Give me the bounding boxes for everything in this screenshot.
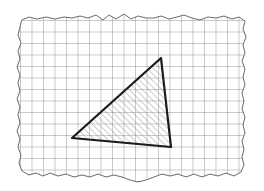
figure-canvas — [0, 0, 264, 191]
figure-root — [0, 0, 264, 191]
